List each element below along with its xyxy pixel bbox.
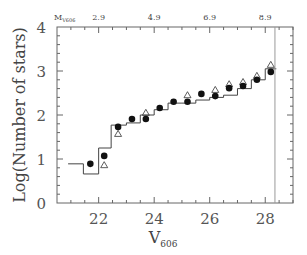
circle-marker	[170, 99, 177, 106]
triangle-marker	[142, 109, 149, 115]
y-tick-label: 1	[36, 151, 46, 169]
y-tick-label: 2	[36, 107, 46, 125]
triangle-marker	[101, 162, 108, 168]
x-axis-title: V606	[148, 228, 178, 249]
y-tick-label: 0	[36, 195, 46, 213]
plot-frame	[57, 27, 293, 203]
x-tick-labels: 22242628	[89, 210, 275, 228]
x-tick-label: 24	[145, 210, 164, 228]
triangle-marker	[115, 130, 122, 136]
y-tick-label: 3	[36, 63, 46, 81]
circle-marker	[184, 99, 191, 106]
axis-ticks	[57, 27, 293, 203]
circle-marker	[156, 105, 163, 112]
circle-marker	[101, 153, 108, 160]
circle-marker	[226, 85, 233, 92]
circle-marker	[129, 116, 136, 123]
triangle-marker	[184, 92, 191, 98]
circle-marker	[115, 124, 122, 131]
luminosity-function-chart: 01234 22242628 2.94.96.98.9 MV606 Log(Nu…	[0, 0, 307, 255]
circle-marker	[267, 69, 274, 76]
x-tick-label: 22	[89, 210, 108, 228]
top-tick-label: 2.9	[92, 13, 105, 22]
top-tick-label: 6.9	[203, 13, 216, 22]
y-axis-title: Log(Number of stars)	[10, 27, 29, 203]
top-axis-labels: 2.94.96.98.9	[92, 13, 271, 22]
top-tick-label: 8.9	[259, 13, 272, 22]
circle-marker	[240, 83, 247, 90]
triangle-marker	[267, 61, 274, 67]
x-tick-label: 26	[200, 210, 219, 228]
y-tick-labels: 01234	[36, 19, 46, 213]
circle-marker	[87, 161, 94, 168]
circle-marker	[198, 91, 205, 98]
y-tick-label: 4	[36, 19, 46, 37]
triangle-marker	[212, 86, 219, 92]
circle-marker	[143, 116, 150, 123]
x-tick-label: 28	[256, 210, 275, 228]
triangle-markers	[101, 61, 275, 167]
top-tick-label: 4.9	[148, 13, 161, 22]
top-axis-title: MV606	[54, 13, 75, 23]
circle-marker	[212, 93, 219, 100]
circle-marker	[254, 77, 261, 84]
